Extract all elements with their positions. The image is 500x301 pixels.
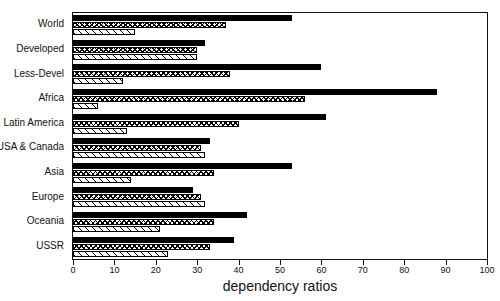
bar-cross — [73, 96, 305, 102]
bar-cross — [73, 47, 197, 53]
bar-diag — [73, 251, 168, 257]
x-tick-label: 100 — [479, 266, 494, 275]
bar-solid — [73, 64, 321, 70]
bar-diag — [73, 177, 131, 183]
x-tick-label: 90 — [441, 266, 451, 275]
bar-solid — [73, 138, 210, 144]
category-label: Latin America — [3, 118, 64, 128]
x-tick-label: 70 — [358, 266, 368, 275]
bar-solid — [73, 114, 326, 120]
x-tick-label: 10 — [109, 266, 119, 275]
bar-diag — [73, 226, 160, 232]
category-label: Africa — [38, 93, 64, 103]
x-tick-label: 0 — [70, 266, 75, 275]
bar-solid — [73, 40, 205, 46]
bar-solid — [73, 187, 193, 193]
bar-diag — [73, 54, 197, 60]
bar-group — [73, 62, 487, 87]
category-label: Asia — [45, 167, 64, 177]
x-tick-label: 50 — [275, 266, 285, 275]
category-label: World — [38, 19, 64, 29]
bar-group — [73, 185, 487, 210]
bar-group — [73, 210, 487, 235]
bar-solid — [73, 237, 234, 243]
bar-diag — [73, 128, 127, 134]
bar-diag — [73, 201, 205, 207]
category-label: USA & Canada — [0, 142, 64, 152]
bar-solid — [73, 163, 292, 169]
x-tick-label: 80 — [399, 266, 409, 275]
bar-diag — [73, 78, 123, 84]
x-tick-label: 30 — [192, 266, 202, 275]
bar-group — [73, 87, 487, 112]
bar-group — [73, 111, 487, 136]
category-label: USSR — [36, 241, 64, 251]
bar-solid — [73, 89, 437, 95]
bar-solid — [73, 15, 292, 21]
bar-group — [73, 234, 487, 259]
chart-figure: WorldDevelopedLess-DevelAfricaLatin Amer… — [0, 0, 500, 301]
bar-diag — [73, 103, 98, 109]
category-label: Less-Devel — [14, 69, 64, 79]
x-tick-label: 60 — [316, 266, 326, 275]
bar-cross — [73, 244, 210, 250]
x-tick-label: 40 — [234, 266, 244, 275]
bar-solid — [73, 212, 247, 218]
category-label: Developed — [16, 44, 64, 54]
bar-cross — [73, 170, 214, 176]
bar-cross — [73, 194, 201, 200]
bar-cross — [73, 121, 239, 127]
x-tick-label: 20 — [151, 266, 161, 275]
x-axis-ticks: 0102030405060708090100 — [72, 260, 488, 274]
bar-group — [73, 136, 487, 161]
bar-group — [73, 161, 487, 186]
bar-group — [73, 38, 487, 63]
bar-cross — [73, 145, 201, 151]
x-axis-title: dependency ratios — [72, 278, 488, 294]
bar-diag — [73, 29, 135, 35]
bar-cross — [73, 22, 226, 28]
bar-diag — [73, 152, 205, 158]
category-axis-labels: WorldDevelopedLess-DevelAfricaLatin Amer… — [0, 12, 68, 260]
bar-group — [73, 13, 487, 38]
category-label: Europe — [32, 192, 64, 202]
category-label: Oceania — [27, 216, 64, 226]
bar-cross — [73, 219, 214, 225]
plot-area — [72, 12, 488, 260]
bar-cross — [73, 71, 230, 77]
